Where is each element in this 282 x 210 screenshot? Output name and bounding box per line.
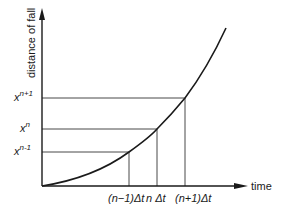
distance-time-diagram: distance of fall xn+1 xn xn-1 (n−1)Δt n … xyxy=(0,0,282,210)
y-tick-xn1: xn+1 xyxy=(13,89,33,103)
y-axis-arrow-icon xyxy=(39,8,45,20)
fall-curve xyxy=(42,28,226,186)
x-tick-tnm1: (n−1)Δt xyxy=(108,192,145,204)
x-axis-arrow-icon xyxy=(234,183,248,189)
x-axis-label: time xyxy=(251,180,272,192)
x-tick-tn: n Δt xyxy=(146,192,167,204)
y-tick-xn: xn xyxy=(19,120,31,134)
y-tick-xnm1: xn-1 xyxy=(13,143,31,157)
y-axis-label: distance of fall xyxy=(25,8,37,78)
x-tick-tn1: (n+1)Δt xyxy=(175,192,212,204)
